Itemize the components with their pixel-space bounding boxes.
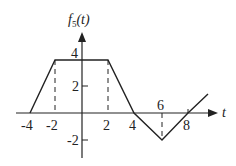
ytick-label-2: 2 (72, 79, 79, 94)
x-axis-label: t (222, 105, 227, 120)
tick-label-2: 2 (103, 118, 110, 133)
ytick-label-4: 4 (71, 46, 78, 61)
y-axis-label: f5(t) (68, 12, 90, 29)
ytick-label-m2: -2 (67, 133, 79, 148)
y-axis-arrow-icon (78, 32, 86, 42)
tick-label-m4: -4 (21, 118, 33, 133)
signal-graph: f5(t) t -4 -2 2 4 6 8 4 2 -2 (0, 0, 236, 166)
tick-label-m2: -2 (46, 118, 58, 133)
tick-label-6: 6 (157, 98, 164, 113)
x-axis-arrow-icon (208, 109, 218, 117)
tick-label-4: 4 (129, 118, 136, 133)
tick-label-8: 8 (183, 118, 190, 133)
